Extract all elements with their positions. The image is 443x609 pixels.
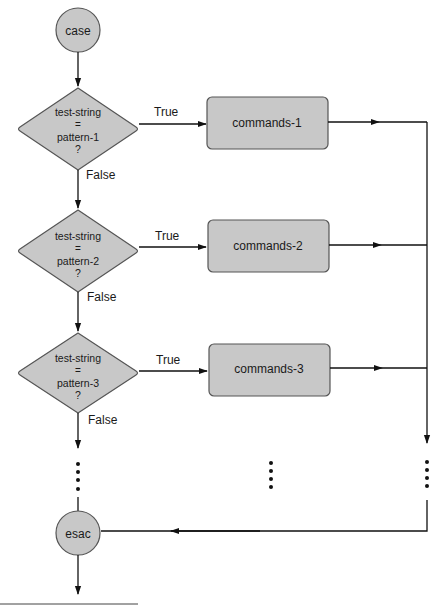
decision-2-line2: =: [75, 243, 81, 254]
commands-1-box: commands-1: [207, 97, 328, 149]
decision-3-line4: ?: [75, 389, 81, 401]
decision-1-line4: ?: [75, 143, 81, 155]
decision-1-line1: test-string: [55, 106, 101, 118]
false-label-3: False: [88, 413, 118, 427]
decision-2-line1: test-string: [55, 230, 101, 242]
false-label-2: False: [87, 290, 117, 304]
ellipsis-left: [76, 462, 80, 491]
start-node-case: case: [56, 8, 100, 52]
decision-3-line2: =: [75, 365, 81, 376]
commands-2-box: commands-2: [208, 220, 329, 272]
true-label-1: True: [154, 105, 179, 119]
decision-3-line1: test-string: [55, 352, 101, 364]
true-label-2: True: [155, 229, 180, 243]
decision-3: test-string = pattern-3 ?: [19, 333, 138, 413]
end-node-label: esac: [65, 527, 90, 541]
right-rail-lower: [101, 500, 427, 531]
decision-1-line2: =: [75, 119, 81, 130]
ellipsis-middle: [269, 461, 273, 489]
decision-3-line3: pattern-3: [57, 377, 99, 389]
decision-2-line3: pattern-2: [57, 255, 99, 267]
commands-1-label: commands-1: [232, 116, 302, 130]
ellipsis-right: [425, 460, 429, 488]
commands-2-label: commands-2: [233, 239, 303, 253]
end-node-esac: esac: [56, 511, 100, 555]
decision-1-line3: pattern-1: [57, 131, 99, 143]
decision-2: test-string = pattern-2 ?: [19, 210, 138, 292]
commands-3-box: commands-3: [209, 344, 330, 396]
commands-3-label: commands-3: [234, 362, 304, 376]
decision-1: test-string = pattern-1 ?: [19, 88, 138, 170]
true-label-3: True: [156, 353, 181, 367]
case-statement-flowchart: case test-string = pattern-1 ? True Fals…: [0, 0, 443, 609]
decision-2-line4: ?: [75, 267, 81, 279]
false-label-1: False: [86, 168, 116, 182]
start-node-label: case: [65, 24, 91, 38]
